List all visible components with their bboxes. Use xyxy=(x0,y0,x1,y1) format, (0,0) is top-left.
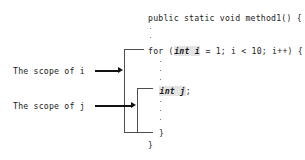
scope-bracket-icon-j xyxy=(137,88,153,133)
ellipsis-dot xyxy=(150,37,151,38)
arrow-right-icon-j-shaft xyxy=(95,105,132,107)
arrow-right-icon-j-head xyxy=(131,102,136,108)
declaration-int-j: int j xyxy=(159,86,186,96)
arrow-right-icon-i-head xyxy=(118,67,123,73)
int-j-terminator: ; xyxy=(186,86,191,96)
ellipsis-dot xyxy=(160,70,161,71)
for-condition: = 1; i < 10; i++) { xyxy=(200,46,303,56)
ellipsis-dot xyxy=(160,101,161,102)
code-line-method-signature: public static void method1() { xyxy=(148,13,302,23)
code-line-close-inner: } xyxy=(159,128,164,138)
declaration-int-i: int i xyxy=(174,46,201,56)
ellipsis-dot xyxy=(160,79,161,80)
ellipsis-dot xyxy=(160,110,161,111)
ellipsis-dot xyxy=(150,28,151,29)
arrow-right-icon-i-shaft xyxy=(95,70,119,72)
scope-diagram: public static void method1() { for (int … xyxy=(0,0,305,160)
ellipsis-dot xyxy=(160,61,161,62)
code-line-for: for (int i = 1; i < 10; i++) { xyxy=(148,46,303,56)
code-line-int-j: int j; xyxy=(159,86,191,96)
for-keyword: for ( xyxy=(148,46,174,56)
code-line-close-outer: } xyxy=(148,140,153,150)
label-scope-of-i: The scope of i xyxy=(13,66,85,76)
label-scope-of-j: The scope of j xyxy=(13,101,85,111)
ellipsis-dot xyxy=(160,119,161,120)
